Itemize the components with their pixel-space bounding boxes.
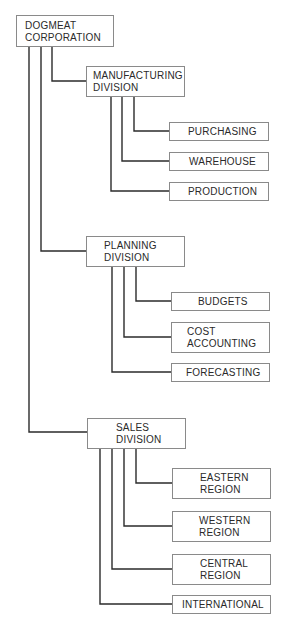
node-budgets: BUDGETS xyxy=(171,292,270,311)
node-label: CENTRAL REGION xyxy=(200,558,248,582)
node-label: EASTERN REGION xyxy=(200,472,249,496)
node-forecasting: FORECASTING xyxy=(171,363,270,382)
node-warehouse: WAREHOUSE xyxy=(169,152,269,171)
connector-mfg-warehouse xyxy=(122,97,169,161)
connector-root-manufacturing xyxy=(52,47,86,81)
node-central-region: CENTRAL REGION xyxy=(172,554,271,585)
node-label: SALES DIVISION xyxy=(116,422,162,446)
node-label: PRODUCTION xyxy=(188,186,257,198)
node-label: DOGMEAT CORPORATION xyxy=(25,20,101,44)
node-dogmeat-corporation: DOGMEAT CORPORATION xyxy=(16,15,114,47)
node-sales-division: SALES DIVISION xyxy=(87,418,186,449)
connector-sales-central xyxy=(112,449,172,569)
connector-root-sales xyxy=(29,47,87,432)
node-label: MANUFACTURING DIVISION xyxy=(93,70,183,94)
node-manufacturing-division: MANUFACTURING DIVISION xyxy=(86,66,185,97)
connector-plan-forecasting xyxy=(112,267,171,372)
node-label: COST ACCOUNTING xyxy=(187,326,256,350)
connector-root-planning xyxy=(41,47,86,251)
node-label: WAREHOUSE xyxy=(189,156,256,168)
node-production: PRODUCTION xyxy=(169,182,269,201)
node-international: INTERNATIONAL xyxy=(172,595,271,614)
node-label: FORECASTING xyxy=(186,367,260,379)
connector-plan-cost-accounting xyxy=(124,267,171,337)
node-eastern-region: EASTERN REGION xyxy=(172,468,271,499)
org-chart: DOGMEAT CORPORATION MANUFACTURING DIVISI… xyxy=(0,0,288,629)
node-label: BUDGETS xyxy=(198,296,248,308)
connector-sales-eastern xyxy=(136,449,172,483)
node-western-region: WESTERN REGION xyxy=(172,511,271,542)
node-cost-accounting: COST ACCOUNTING xyxy=(171,322,270,353)
node-purchasing: PURCHASING xyxy=(169,122,269,141)
connector-mfg-production xyxy=(111,97,169,191)
node-label: PURCHASING xyxy=(188,126,257,138)
node-label: INTERNATIONAL xyxy=(182,599,264,611)
node-label: PLANNING DIVISION xyxy=(104,240,157,264)
node-planning-division: PLANNING DIVISION xyxy=(86,236,185,267)
connector-sales-western xyxy=(124,449,172,526)
connector-plan-budgets xyxy=(136,267,171,301)
node-label: WESTERN REGION xyxy=(199,515,250,539)
connector-mfg-purchasing xyxy=(134,97,169,131)
